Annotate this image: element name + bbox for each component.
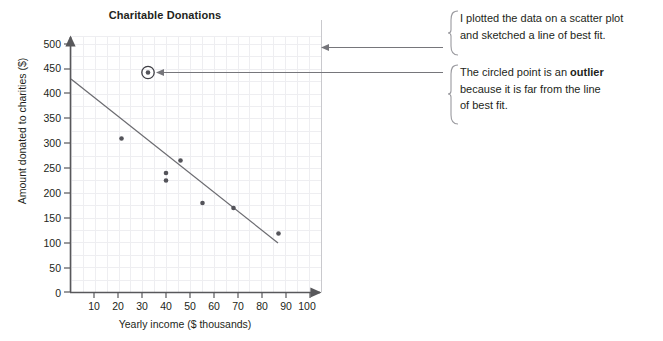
x-tick-30: 30: [129, 301, 155, 311]
y-tick-300: 300: [31, 138, 61, 148]
scatter-plot-figure: Charitable Donations 500 450 400 350 300…: [0, 0, 330, 341]
x-tick-100: 100: [294, 301, 320, 311]
y-tick-100: 100: [31, 238, 61, 248]
y-tick-250: 250: [31, 163, 61, 173]
callout-1-line-2: and sketched a line of best fit.: [460, 27, 658, 44]
y-tick-50: 50: [31, 263, 61, 273]
x-tick-10: 10: [81, 301, 107, 311]
callout-2-line-3: of best fit.: [460, 97, 658, 114]
callout-2-text: The circled point is an outlier because …: [460, 64, 658, 114]
curly-brace-icon: [447, 10, 460, 56]
plot-area: [71, 36, 322, 292]
callout-2-keyword-outlier: outlier: [570, 66, 604, 78]
x-tick-50: 50: [177, 301, 203, 311]
x-tick-80: 80: [249, 301, 275, 311]
y-tick-500: 500: [31, 39, 61, 49]
plot-right-divider: [321, 20, 322, 292]
grid-lines: [71, 36, 322, 292]
y-tick-350: 350: [31, 113, 61, 123]
y-tick-450: 450: [31, 63, 61, 73]
curly-brace-icon: [447, 64, 460, 126]
callout-1-line-1: I plotted the data on a scatter plot: [460, 10, 658, 27]
worksheet-page: Charitable Donations 500 450 400 350 300…: [0, 0, 663, 341]
callout-1-text: I plotted the data on a scatter plot and…: [460, 10, 658, 43]
x-axis-label: Yearly income ($ thousands): [55, 318, 315, 330]
x-tick-70: 70: [225, 301, 251, 311]
callout-2-line-1-prefix: The circled point is an: [460, 66, 570, 78]
x-tick-20: 20: [105, 301, 131, 311]
y-tick-200: 200: [31, 188, 61, 198]
y-tick-150: 150: [31, 213, 61, 223]
y-tick-0: 0: [31, 288, 61, 298]
callout-2-line-2: because it is far from the line: [460, 81, 658, 98]
y-tick-400: 400: [31, 88, 61, 98]
callout-2-line-1: The circled point is an outlier: [460, 64, 658, 81]
chart-title: Charitable Donations: [0, 9, 330, 21]
x-tick-60: 60: [201, 301, 227, 311]
y-axis-label: Amount donated to charities ($): [16, 6, 28, 256]
x-tick-40: 40: [153, 301, 179, 311]
